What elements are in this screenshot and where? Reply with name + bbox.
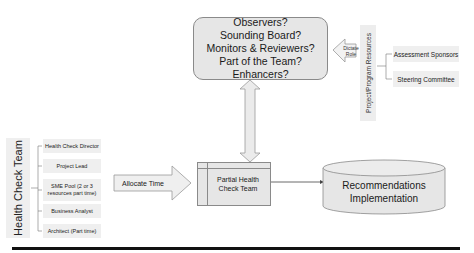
resource-steering-committee: Steering Committee: [393, 71, 459, 87]
role-sounding-board: Sounding Board?: [220, 29, 301, 42]
project-resources-label: Project/Program Resources: [360, 25, 376, 121]
team-item-director: Health Check Director: [43, 139, 101, 153]
role-part-of-team: Part of the Team?: [219, 55, 302, 68]
partial-team-box: Partial Health Check Team: [197, 162, 271, 206]
team-item-architect: Architect (Part time): [43, 224, 101, 238]
team-item-text: resources part time): [48, 190, 97, 197]
health-check-team-label: Health Check Team: [6, 138, 30, 238]
partial-team-text: Check Team: [219, 184, 258, 193]
role-text: Role: [346, 51, 356, 57]
team-item-text: Project Lead: [57, 163, 88, 170]
partial-team-text: Partial Health: [217, 175, 259, 184]
recommendations-label: Recommendations Implementation: [323, 176, 445, 208]
role-observers: Observers?: [233, 16, 287, 29]
role-enhancers: Enhancers?: [232, 68, 288, 81]
resource-assessment-sponsors: Assessment Sponsors: [393, 46, 459, 62]
team-item-text: SME Pool (2 or 3: [51, 183, 93, 190]
roles-box: Observers? Sounding Board? Monitors & Re…: [193, 17, 328, 80]
allocate-time-label: Allocate Time: [114, 175, 172, 191]
dictate-role-label: Dictate Role: [344, 44, 358, 57]
team-item-project-lead: Project Lead: [43, 159, 101, 173]
double-arrow-icon: [240, 80, 260, 162]
project-resources-text: Project/Program Resources: [365, 33, 372, 113]
team-item-sme-pool: SME Pool (2 or 3 resources part time): [43, 179, 101, 201]
health-check-team-text: Health Check Team: [12, 140, 24, 236]
role-monitors-reviewers: Monitors & Reviewers?: [207, 42, 315, 55]
team-item-business-analyst: Business Analyst: [43, 204, 101, 218]
recommendations-text: Recommendations: [342, 179, 425, 192]
team-item-text: Business Analyst: [51, 208, 93, 215]
divider-line: [12, 247, 460, 250]
team-item-text: Health Check Director: [45, 143, 99, 150]
implementation-text: Implementation: [350, 192, 418, 205]
team-item-text: Architect (Part time): [48, 228, 97, 235]
